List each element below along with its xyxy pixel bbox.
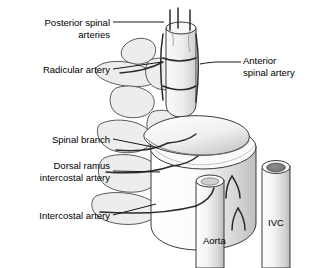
label-spinal-branch: Spinal branch <box>6 134 110 146</box>
aorta-group <box>196 175 224 268</box>
label-intercostal-artery: Intercostal artery <box>6 210 110 222</box>
spinal-cord-group <box>166 22 196 117</box>
spinal-cord <box>166 28 196 117</box>
label-dorsal-ramus-line2: intercostal artery <box>6 172 110 184</box>
label-intercostal-line1: Intercostal artery <box>6 210 110 222</box>
label-anterior-spinal-artery: Anterior spinal artery <box>243 55 311 78</box>
label-ivc: IVC <box>268 217 284 229</box>
label-spinal-branch-line1: Spinal branch <box>6 134 110 146</box>
aorta-vessel <box>196 180 224 268</box>
label-posterior-spinal-line2: arteries <box>6 29 110 41</box>
intervertebral-disc <box>144 116 249 156</box>
label-radicular-artery: Radicular artery <box>6 64 110 76</box>
ivc-lumen <box>267 163 286 172</box>
intervertebral-disc-group <box>144 116 249 156</box>
label-radicular-line1: Radicular artery <box>6 64 110 76</box>
label-posterior-spinal-line1: Posterior spinal <box>6 17 110 29</box>
label-posterior-spinal-arteries: Posterior spinal arteries <box>6 17 110 40</box>
label-anterior-spinal-line1: Anterior <box>243 55 311 67</box>
vertebral-arch-mid <box>110 86 154 118</box>
label-anterior-spinal-line2: spinal artery <box>243 67 311 79</box>
ivc-group <box>262 161 290 268</box>
label-dorsal-ramus-line1: Dorsal ramus <box>6 160 110 172</box>
leader-anterior-spinal-hook <box>200 62 218 64</box>
aorta-lumen <box>201 178 219 185</box>
label-dorsal-ramus-intercostal-artery: Dorsal ramus intercostal artery <box>6 160 110 183</box>
anatomy-figure: Posterior spinal arteries Radicular arte… <box>0 0 311 268</box>
label-aorta: Aorta <box>203 235 226 247</box>
